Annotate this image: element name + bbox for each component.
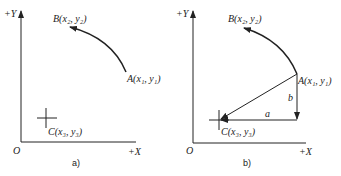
origin-label: O [186, 145, 193, 156]
point-b-label: B(x₂, y₂) [228, 13, 262, 25]
arc-a-to-b [70, 27, 126, 72]
point-a-label: A(x₁, y₁) [297, 75, 332, 87]
y-axis-label: +Y [176, 8, 190, 19]
point-b-label: B(x₂, y₂) [53, 13, 87, 25]
x-axis-label: +X [299, 146, 313, 157]
arc-a-to-b [244, 28, 297, 74]
vector-a-to-c [221, 74, 297, 119]
segment-b-label: b [288, 92, 293, 103]
caption-b: b) [243, 158, 251, 168]
point-c-label: C(x₃, y₃) [48, 126, 83, 138]
segment-a-label: a [265, 108, 270, 119]
point-a-label: A(x₁, y₁) [126, 73, 161, 85]
panel-b: +Y +X O B(x₂, y₂) A(x₁, y₁) b a C(x₃, y₃… [176, 8, 332, 168]
caption-a: a) [72, 158, 80, 168]
point-c-label: C(x₃, y₃) [221, 126, 256, 138]
origin-label: O [13, 145, 20, 156]
panel-a: +Y +X O B(x₂, y₂) A(x₁, y₁) C(x₃, y₃) a) [4, 8, 161, 168]
x-axis-label: +X [128, 146, 142, 157]
diagram-canvas: +Y +X O B(x₂, y₂) A(x₁, y₁) C(x₃, y₃) a)… [0, 0, 341, 176]
y-axis-label: +Y [4, 8, 18, 19]
